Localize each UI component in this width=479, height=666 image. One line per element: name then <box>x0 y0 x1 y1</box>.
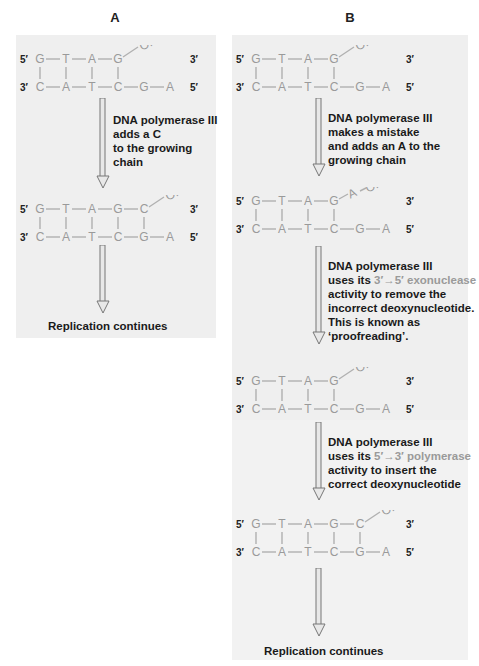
svg-text:A: A <box>346 187 359 201</box>
step-b2-text: DNA polymerase III uses its 3′→5′ exonuc… <box>328 259 476 343</box>
svg-text:G: G <box>355 222 364 236</box>
exonuclease-highlight: 3′→5′ exonuclease <box>374 274 476 286</box>
svg-text:A: A <box>278 80 286 94</box>
panel-b-heading: B <box>340 10 360 25</box>
svg-text:A: A <box>166 80 174 94</box>
text-line: DNA polymerase III <box>328 435 471 449</box>
svg-text:G: G <box>251 194 260 208</box>
svg-text:A: A <box>166 230 174 244</box>
text-line: activity to insert the <box>328 463 471 477</box>
svg-text:A: A <box>304 194 312 208</box>
svg-text:T: T <box>304 545 312 559</box>
svg-text:G: G <box>329 52 338 66</box>
svg-text:5′: 5′ <box>20 204 29 215</box>
svg-text:C: C <box>114 80 123 94</box>
svg-text:G: G <box>251 52 260 66</box>
text-line: This is known as <box>328 315 476 329</box>
svg-text:G: G <box>355 402 364 416</box>
svg-text:C: C <box>36 230 45 244</box>
svg-text:3′: 3′ <box>236 224 245 235</box>
text-line: and adds an A to the <box>328 139 440 153</box>
svg-text:A: A <box>382 545 390 559</box>
svg-text:5′: 5′ <box>236 54 245 65</box>
text-line: DNA polymerase III <box>113 113 217 127</box>
svg-text:A: A <box>88 52 96 66</box>
svg-text:5′: 5′ <box>190 82 199 93</box>
svg-text:3′: 3′ <box>406 196 415 207</box>
svg-text:T: T <box>278 374 286 388</box>
text-line: uses its 5′→3′ polymerase <box>328 449 471 463</box>
text-line: adds a C <box>113 127 217 141</box>
svg-text:C: C <box>252 222 261 236</box>
replication-continues-a: Replication continues <box>48 320 168 332</box>
svg-text:G: G <box>251 517 260 531</box>
svg-text:3′: 3′ <box>406 519 415 530</box>
svg-text:3′: 3′ <box>190 54 199 65</box>
polymerase-highlight: 5′→3′ polymerase <box>374 450 471 462</box>
svg-text:3′: 3′ <box>236 404 245 415</box>
svg-text:A: A <box>304 52 312 66</box>
svg-text:C: C <box>114 230 123 244</box>
svg-text:G: G <box>35 52 44 66</box>
svg-text:G: G <box>355 545 364 559</box>
svg-text:5′: 5′ <box>236 376 245 387</box>
arrow-down-icon <box>312 246 326 346</box>
dna-duplex-b-extended: 5′3′3′5′CATCGAGTAGCOH <box>232 510 432 562</box>
svg-text:C: C <box>252 402 261 416</box>
svg-text:C: C <box>330 545 339 559</box>
svg-text:A: A <box>62 80 70 94</box>
svg-text:T: T <box>62 202 70 216</box>
svg-text:T: T <box>88 230 96 244</box>
step-a1-text: DNA polymerase III adds a C to the growi… <box>113 113 217 169</box>
svg-text:3′: 3′ <box>20 232 29 243</box>
svg-text:OH: OH <box>353 45 375 54</box>
svg-text:G: G <box>139 80 148 94</box>
svg-text:G: G <box>355 80 364 94</box>
svg-text:G: G <box>139 230 148 244</box>
arrow-down-icon <box>312 98 326 178</box>
svg-text:A: A <box>382 402 390 416</box>
svg-text:A: A <box>88 202 96 216</box>
step-b1-text: DNA polymerase III makes a mistake and a… <box>328 111 440 167</box>
arrow-down-icon <box>312 568 326 638</box>
svg-text:A: A <box>304 517 312 531</box>
arrow-down-icon <box>96 245 110 315</box>
svg-text:C: C <box>36 80 45 94</box>
text: uses its <box>328 450 374 462</box>
svg-text:C: C <box>330 80 339 94</box>
text-line: ‘proofreading’. <box>328 329 476 343</box>
panel-a-heading: A <box>105 10 125 25</box>
svg-text:OH: OH <box>137 45 159 54</box>
text-line: to the growing <box>113 141 217 155</box>
svg-text:3′: 3′ <box>236 82 245 93</box>
dna-duplex-b-mismatch: 5′3′3′5′CATCGAGTAGAOH <box>232 187 432 239</box>
text-line: DNA polymerase III <box>328 111 440 125</box>
svg-text:OH: OH <box>163 195 185 204</box>
dna-duplex-a-extended: 5′3′3′5′CATCGAGTAGCOH <box>16 195 216 247</box>
dna-duplex-a-initial: 5′3′3′5′CATCGAGTAGOH <box>16 45 216 97</box>
svg-text:G: G <box>251 374 260 388</box>
text-line: DNA polymerase III <box>328 259 476 273</box>
text: uses its <box>328 274 374 286</box>
replication-continues-b: Replication continues <box>264 645 384 657</box>
svg-text:C: C <box>252 545 261 559</box>
svg-text:C: C <box>330 402 339 416</box>
step-b3-text: DNA polymerase III uses its 5′→3′ polyme… <box>328 435 471 491</box>
dna-duplex-b-corrected: 5′3′3′5′CATCGAGTAGOH <box>232 367 432 419</box>
svg-text:A: A <box>304 374 312 388</box>
dna-duplex-b-initial: 5′3′3′5′CATCGAGTAGOH <box>232 45 432 97</box>
svg-text:5′: 5′ <box>20 54 29 65</box>
svg-text:G: G <box>329 194 338 208</box>
text-line: uses its 3′→5′ exonuclease <box>328 273 476 287</box>
svg-text:A: A <box>278 545 286 559</box>
svg-text:5′: 5′ <box>406 547 415 558</box>
svg-text:G: G <box>35 202 44 216</box>
text-line: chain <box>113 155 217 169</box>
svg-text:T: T <box>88 80 96 94</box>
text-line: activity to remove the <box>328 287 476 301</box>
svg-text:5′: 5′ <box>236 196 245 207</box>
svg-text:T: T <box>278 52 286 66</box>
svg-text:3′: 3′ <box>190 204 199 215</box>
svg-text:G: G <box>113 202 122 216</box>
svg-text:C: C <box>330 222 339 236</box>
